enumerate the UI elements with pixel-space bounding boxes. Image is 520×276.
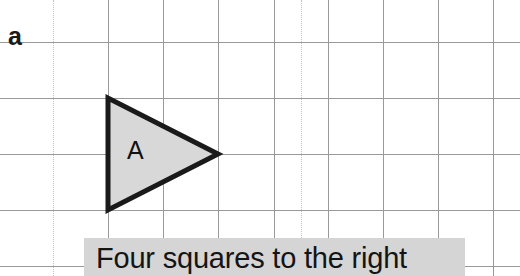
caption-text: Four squares to the right [96,241,407,275]
shape-label-a: A [127,138,144,163]
figure-panel: a A Four squares to the right [0,0,520,276]
shape-layer [0,0,520,276]
triangle-shape [108,98,218,210]
